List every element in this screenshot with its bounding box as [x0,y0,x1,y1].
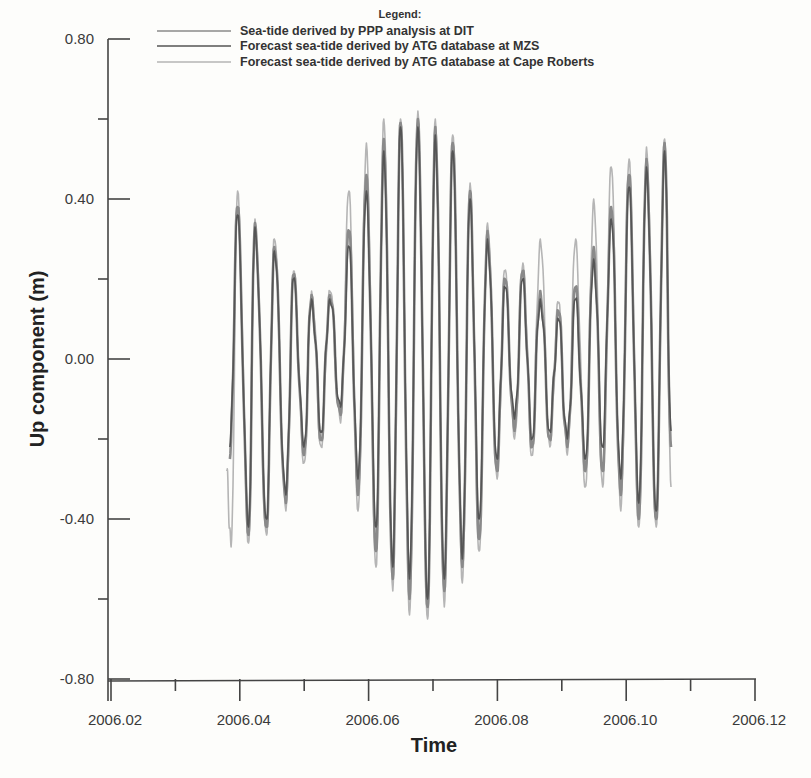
series-line [230,127,671,599]
legend-title: Legend: [379,8,422,20]
y-tick-label: 0.40 [65,190,94,207]
legend-label-dit: Sea-tide derived by PPP analysis at DIT [240,24,474,38]
legend: Legend: Sea-tide derived by PPP analysis… [157,8,594,69]
x-tick-label: 2006.12 [732,711,786,728]
legend-entry-cape-roberts: Forecast sea-tide derived by ATG databas… [157,55,594,69]
x-tick-label: 2006.08 [474,711,528,728]
x-ticks: 2006.022006.042006.062006.082006.102006.… [88,679,786,728]
y-tick-label: -0.40 [60,510,94,527]
y-axis-title: Up component (m) [26,271,48,448]
legend-entry-mzs: Forecast sea-tide derived by ATG databas… [157,39,539,53]
y-ticks: 0.800.400.00-0.40-0.80 [60,30,130,687]
x-tick-label: 2006.02 [88,711,142,728]
x-axis-line [108,679,756,681]
x-tick-label: 2006.04 [217,711,271,728]
y-tick-label: 0.80 [65,30,94,47]
legend-label-cape-roberts: Forecast sea-tide derived by ATG databas… [240,55,594,69]
y-tick-label: -0.80 [60,670,94,687]
legend-label-mzs: Forecast sea-tide derived by ATG databas… [240,39,539,53]
x-tick-label: 2006.10 [603,711,657,728]
x-tick-label: 2006.06 [345,711,399,728]
legend-entry-dit: Sea-tide derived by PPP analysis at DIT [157,24,474,38]
y-tick-label: 0.00 [65,350,94,367]
tide-chart: 0.800.400.00-0.40-0.80 2006.022006.04200… [0,0,811,778]
x-axis-title: Time [411,734,457,756]
series-layer [227,111,671,619]
